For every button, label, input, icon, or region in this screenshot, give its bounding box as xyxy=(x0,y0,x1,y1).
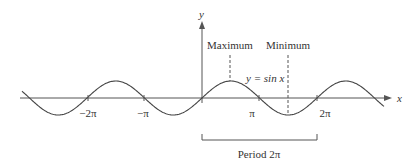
tick-label-2pi: 2π xyxy=(319,107,331,119)
maximum-label: Maximum xyxy=(207,39,253,51)
y-axis-label: y xyxy=(198,8,204,20)
tick-group: −2π −π π 2π xyxy=(79,95,331,119)
minimum-label: Minimum xyxy=(266,39,310,51)
tick-label-neg-2pi: −2π xyxy=(79,107,97,119)
curve-label: y = sin x xyxy=(245,72,284,84)
sine-diagram: x y −2π −π π 2π Maximum Minimum y = sin … xyxy=(0,0,420,167)
period-bracket xyxy=(202,134,317,140)
period-label: Period 2π xyxy=(238,148,281,160)
tick-label-pi: π xyxy=(249,107,255,119)
tick-label-neg-pi: −π xyxy=(137,107,149,119)
x-axis-arrow-icon xyxy=(384,95,392,101)
y-axis-arrow-icon xyxy=(199,21,205,29)
x-axis-label: x xyxy=(396,92,402,104)
